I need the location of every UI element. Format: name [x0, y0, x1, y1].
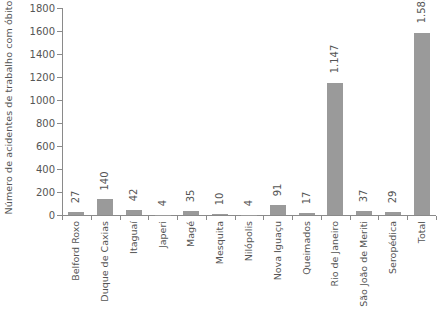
- bar[interactable]: [385, 212, 401, 215]
- x-axis-category-label: Duque de Caxias: [91, 221, 120, 326]
- bar-group: 37: [350, 8, 379, 215]
- y-axis-tick-label: 800: [36, 118, 55, 129]
- x-axis-tick-mark: [148, 216, 149, 220]
- bar-value-label: 4: [244, 199, 254, 205]
- x-axis-category-label-text: Seropédica: [388, 221, 398, 274]
- bar-group: 10: [206, 8, 235, 215]
- y-axis-tick-label: 1600: [30, 26, 55, 37]
- bar[interactable]: [327, 83, 343, 215]
- y-axis-tick-label: 200: [36, 187, 55, 198]
- y-axis-tick-label: 1400: [30, 49, 55, 60]
- bar[interactable]: [126, 210, 142, 215]
- x-axis-tick-mark: [177, 216, 178, 220]
- y-axis-title: Número de acidentes de trabalho com óbit…: [0, 0, 18, 215]
- x-axis-tick-mark: [91, 216, 92, 220]
- x-axis-category-label: Nilópolis: [235, 221, 264, 326]
- x-axis-category-label: Mesquita: [206, 221, 235, 326]
- x-axis-category-label-text: Japeri: [158, 221, 168, 248]
- bar[interactable]: [299, 213, 315, 215]
- bar-group: 29: [378, 8, 407, 215]
- y-axis-tick-label: 1200: [30, 72, 55, 83]
- y-axis-tick-label: 400: [36, 164, 55, 175]
- x-axis-category-label: Queimados: [292, 221, 321, 326]
- plot-area: 271404243510491171.14737291.583: [62, 8, 436, 215]
- x-axis-line: [62, 215, 436, 216]
- x-axis-category-label-text: Nilópolis: [244, 221, 254, 261]
- x-axis-category-label-text: São João de Meriti: [359, 221, 369, 307]
- bar[interactable]: [356, 211, 372, 215]
- x-axis-category-label: Total: [407, 221, 436, 326]
- bar[interactable]: [414, 33, 430, 215]
- bar-group: 4: [148, 8, 177, 215]
- x-axis-tick-mark: [292, 216, 293, 220]
- x-axis-category-label-text: Nova Iguaçu: [273, 221, 283, 280]
- bar-value-label: 27: [71, 191, 81, 204]
- bar-value-label: 35: [186, 190, 196, 203]
- bar-value-label: 10: [215, 192, 225, 205]
- x-axis-category-label-text: Mesquita: [215, 221, 225, 264]
- x-axis-category-label: Nova Iguaçu: [263, 221, 292, 326]
- x-axis-category-label: Belford Roxo: [62, 221, 91, 326]
- x-axis-tick-mark: [378, 216, 379, 220]
- y-axis-tick-labels: 180016001400120010008006004002000: [18, 0, 59, 222]
- bar-value-label: 17: [302, 192, 312, 205]
- bar-value-label: 140: [100, 171, 110, 190]
- bar[interactable]: [97, 199, 113, 215]
- bar-group: 91: [263, 8, 292, 215]
- bar-group: 42: [120, 8, 149, 215]
- bar-value-label: 42: [129, 189, 139, 202]
- x-axis-category-label-text: Belford Roxo: [72, 221, 82, 281]
- bar-value-label: 29: [388, 190, 398, 203]
- bar[interactable]: [68, 212, 84, 215]
- bar[interactable]: [212, 214, 228, 215]
- x-axis-tick-mark: [321, 216, 322, 220]
- x-axis-category-label-text: Itaguaí: [129, 221, 139, 254]
- x-axis-tick-mark: [62, 216, 63, 220]
- bar-value-label: 1.583: [417, 0, 427, 23]
- bar-group: 1.583: [407, 8, 436, 215]
- x-axis-tick-mark: [263, 216, 264, 220]
- x-axis-tick-mark: [120, 216, 121, 220]
- bar-value-label: 37: [359, 189, 369, 202]
- x-axis-category-label: Rio de Janeiro: [321, 221, 350, 326]
- bar-value-label: 91: [273, 183, 283, 196]
- bar-group: 4: [235, 8, 264, 215]
- x-axis-tick-mark: [206, 216, 207, 220]
- bar-value-label: 4: [158, 199, 168, 205]
- bar[interactable]: [270, 205, 286, 215]
- bar[interactable]: [183, 211, 199, 215]
- x-axis-category-label-text: Total: [417, 221, 427, 243]
- x-axis-category-labels: Belford RoxoDuque de CaxiasItaguaíJaperi…: [62, 221, 436, 326]
- x-axis-category-label: Seropédica: [378, 221, 407, 326]
- bar-group: 27: [62, 8, 91, 215]
- y-axis-title-text: Número de acidentes de trabalho com óbit…: [4, 1, 15, 215]
- x-axis-category-label: Magé: [177, 221, 206, 326]
- x-axis-category-label-text: Rio de Janeiro: [331, 221, 341, 287]
- y-axis-tick-label: 600: [36, 141, 55, 152]
- x-axis-category-label-text: Queimados: [302, 221, 312, 275]
- bar-group: 1.147: [321, 8, 350, 215]
- x-axis-category-label: Itaguaí: [120, 221, 149, 326]
- bar-chart: Número de acidentes de trabalho com óbit…: [0, 0, 438, 326]
- x-axis-category-label-text: Magé: [187, 221, 197, 247]
- x-axis-tick-mark: [407, 216, 408, 220]
- x-axis-tick-mark: [235, 216, 236, 220]
- y-axis-tick-label: 1800: [30, 3, 55, 14]
- y-axis-tick-label: 0: [49, 210, 55, 221]
- x-axis-category-label: São João de Meriti: [350, 221, 379, 326]
- bar-group: 35: [177, 8, 206, 215]
- bar-value-label: 1.147: [330, 45, 340, 74]
- x-axis-tick-mark: [350, 216, 351, 220]
- y-axis-tick-label: 1000: [30, 95, 55, 106]
- x-axis-category-label-text: Duque de Caxias: [100, 221, 110, 302]
- x-axis-category-label: Japeri: [148, 221, 177, 326]
- bar-group: 17: [292, 8, 321, 215]
- bar-group: 140: [91, 8, 120, 215]
- x-axis-tick-mark: [436, 216, 437, 220]
